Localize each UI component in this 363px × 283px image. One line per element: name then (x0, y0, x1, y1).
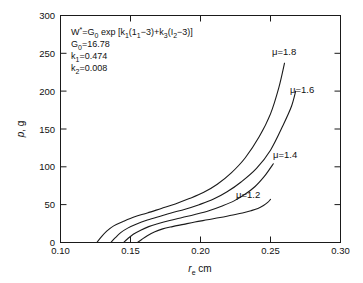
curve-mu-1-6 (111, 91, 296, 242)
annotation-k1: k1=0.474 (71, 51, 107, 63)
x-axis-title-unit: cm (198, 263, 211, 274)
annotation-block: W*=G0 exp [k1(11−3)+k3(I2−3)] G0=16.78 k… (71, 26, 193, 75)
y-tick-label: 200 (39, 86, 55, 97)
y-tick-label: 100 (39, 161, 55, 172)
y-axis-title: p, g (15, 121, 26, 139)
curve-mu-1-4 (124, 164, 274, 243)
plot-frame (61, 16, 341, 243)
y-axis-ticks (61, 16, 341, 243)
svg-text:p, g: p, g (15, 121, 26, 139)
x-tick-label: 0.15 (121, 245, 140, 256)
x-tick-label: 0.25 (261, 245, 280, 256)
chart-canvas: 0.10 0.15 0.20 0.25 0.30 0 50 100 150 20… (0, 0, 363, 283)
x-axis-title: re cm (188, 263, 211, 276)
x-tick-labels: 0.10 0.15 0.20 0.25 0.30 (51, 245, 350, 256)
x-tick-label: 0.20 (191, 245, 210, 256)
series-label-mu-1-4: μ=1.4 (273, 149, 297, 160)
y-axis-title-unit: , g (15, 121, 26, 132)
annotation-equation: W*=G0 exp [k1(11−3)+k3(I2−3)] (71, 26, 193, 39)
series-label-mu-1-6: μ=1.6 (290, 84, 314, 95)
y-tick-label: 150 (39, 124, 55, 135)
y-tick-labels: 0 50 100 150 200 250 300 (39, 10, 55, 248)
x-axis-ticks (61, 16, 341, 243)
y-tick-label: 250 (39, 48, 55, 59)
y-tick-label: 0 (50, 237, 55, 248)
annotation-k2: k2=0.008 (71, 63, 107, 75)
chart-figure: 0.10 0.15 0.20 0.25 0.30 0 50 100 150 20… (0, 0, 363, 283)
series-label-mu-1-8: μ=1.8 (272, 46, 296, 57)
data-curves (97, 63, 296, 242)
annotation-g0: G0=16.78 (71, 39, 110, 51)
x-tick-label: 0.30 (331, 245, 350, 256)
curve-mu-1-2 (138, 199, 271, 242)
series-label-mu-1-2: μ=1.2 (236, 189, 260, 200)
y-tick-label: 300 (39, 10, 55, 21)
y-tick-label: 50 (44, 199, 55, 210)
